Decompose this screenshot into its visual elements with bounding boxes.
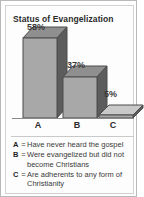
legend-item-a: A = Have never heard the gospel [13, 140, 135, 150]
bar-b [63, 65, 97, 118]
legend-text-c: Are adherents to any form of Christianit… [27, 170, 135, 189]
bar-a [23, 26, 57, 118]
bar-c-value-label: 5% [104, 89, 117, 99]
axis-baseline [12, 118, 134, 119]
category-label-a: A [28, 120, 48, 130]
legend-item-c: C = Are adherents to any form of Christi… [13, 170, 135, 189]
legend-separator-c: = [20, 170, 27, 180]
bar-c [99, 104, 133, 118]
chart-panel-inner: Status of Evangelization 58% [5, 5, 134, 194]
category-label-c: C [103, 120, 123, 130]
legend-key-b: B [13, 150, 20, 160]
bar-c-top-face [99, 105, 137, 115]
chart-legend: A = Have never heard the gospel B = Were… [13, 140, 135, 189]
bar-a-front-face [23, 38, 57, 118]
category-label-b: B [67, 120, 87, 130]
bar-b-front-face [63, 77, 97, 118]
category-axis: A B C [11, 120, 137, 134]
legend-separator-a: = [20, 140, 27, 150]
legend-key-c: C [13, 170, 20, 180]
bar-a-value-label: 58% [27, 22, 45, 32]
legend-divider [11, 136, 134, 137]
legend-separator-b: = [20, 150, 27, 160]
legend-key-a: A [13, 140, 20, 150]
chart-panel: Status of Evangelization 58% [0, 0, 137, 197]
legend-text-a: Have never heard the gospel [27, 140, 135, 150]
bar-b-value-label: 37% [67, 60, 85, 70]
legend-text-b: Were evangelized but did not become Chri… [27, 150, 135, 169]
bar-chart-plot: 58% 37% 5% [11, 26, 137, 126]
legend-item-b: B = Were evangelized but did not become … [13, 150, 135, 169]
